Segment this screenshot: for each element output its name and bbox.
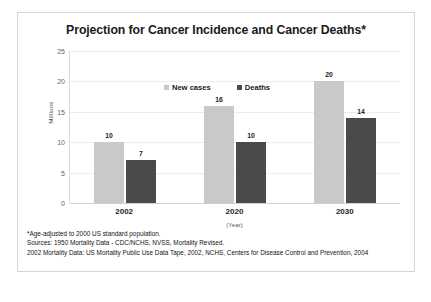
y-tick-label-15: 15 [57,108,65,115]
bar-value-deaths-2002: 7 [126,150,156,157]
bar-deaths-2030[interactable]: 14 [346,118,376,203]
gridline-0: 0 [70,203,400,204]
bar-value-new-cases-2020: 16 [204,96,234,103]
bar-new-cases-2030[interactable]: 20 [314,81,344,203]
bar-group-2020: 16 10 [180,51,290,203]
bar-value-new-cases-2002: 10 [94,132,124,139]
bars-layer: 10 7 16 10 20 [70,51,400,203]
bar-deaths-2002[interactable]: 7 [126,160,156,203]
bar-group-2030: 20 14 [290,51,400,203]
chart-area: Millions New cases Deaths 25 20 15 10 [26,47,408,227]
bar-new-cases-2020[interactable]: 16 [204,106,234,203]
footnote-age-adjusted: *Age-adjusted to 2000 US standard popula… [27,229,408,238]
x-axis-title: (Year) [69,221,400,228]
x-tick-label-2020: 2020 [179,207,289,216]
bar-value-new-cases-2030: 20 [314,71,344,78]
bar-deaths-2020[interactable]: 10 [236,142,266,203]
x-axis-labels: 2002 2020 2030 [69,207,400,216]
bar-group-2002: 10 7 [70,51,180,203]
bar-value-deaths-2020: 10 [236,132,266,139]
slide-frame: Projection for Cancer Incidence and Canc… [17,12,415,272]
plot-area: 25 20 15 10 5 0 10 [69,51,400,203]
y-tick-label-5: 5 [61,169,65,176]
y-tick-label-25: 25 [57,48,65,55]
bar-new-cases-2002[interactable]: 10 [94,142,124,203]
y-tick-label-0: 0 [61,200,65,207]
footnote-sources: Sources: 1950 Mortality Data - CDC/NCHS,… [27,238,408,247]
y-tick-label-10: 10 [57,139,65,146]
chart-title: Projection for Cancer Incidence and Canc… [18,23,414,37]
footnote-mortality-data: 2002 Mortality Data: US Mortality Public… [27,248,408,257]
y-tick-label-20: 20 [57,78,65,85]
x-tick-label-2002: 2002 [69,207,179,216]
y-axis-title: Millions [47,85,54,141]
bar-value-deaths-2030: 14 [346,108,376,115]
footnotes-block: *Age-adjusted to 2000 US standard popula… [27,229,408,257]
x-tick-label-2030: 2030 [290,207,400,216]
